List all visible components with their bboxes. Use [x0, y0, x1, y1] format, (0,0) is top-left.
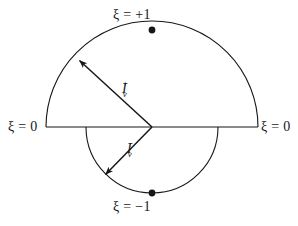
- label-xi-zero-right: ξ = 0: [261, 120, 291, 134]
- label-lower-flux: I−v: [127, 140, 141, 158]
- label-xi-zero-left: ξ = 0: [8, 120, 38, 134]
- label-xi-minus-one: ξ = −1: [113, 200, 151, 214]
- top-marker-dot: [149, 27, 156, 34]
- bottom-marker-dot: [149, 190, 156, 197]
- upper-semicircle-arc: [46, 21, 258, 127]
- diagram-svg: [0, 0, 298, 226]
- upper-flux-superscript: +: [123, 78, 128, 88]
- diagram-canvas: ξ = +1 ξ = −1 ξ = 0 ξ = 0 I+v I−v: [0, 0, 298, 226]
- upper-flux-arrow: [80, 61, 153, 128]
- lower-flux-superscript: −: [128, 138, 133, 148]
- label-upper-flux: I+v: [122, 80, 136, 98]
- upper-flux-subscript: v: [123, 89, 127, 99]
- label-xi-plus-one: ξ = +1: [113, 8, 151, 22]
- lower-flux-subscript: v: [128, 149, 132, 159]
- lower-semicircle-arc: [86, 127, 218, 193]
